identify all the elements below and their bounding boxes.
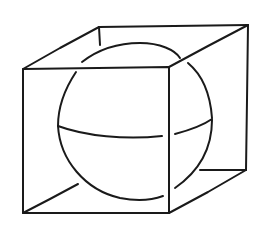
diagram-svg <box>0 0 270 234</box>
equator <box>58 119 212 138</box>
cube-bottom-right-edge <box>169 170 246 213</box>
sphere-outline-right-lower <box>175 120 212 188</box>
cube-back-right-edge <box>246 25 248 170</box>
sphere-outline-top <box>82 43 180 62</box>
cube-back-top-edge <box>99 25 248 27</box>
cube <box>23 25 248 213</box>
cube-back-left-edge-stub <box>99 27 100 45</box>
cube-bottom-left-edge-stub <box>23 184 78 213</box>
sphere-outline-right-upper <box>188 63 212 118</box>
cube-top-left-edge <box>23 27 99 69</box>
cube-front-face <box>23 67 169 213</box>
equator-front-segment <box>58 126 162 138</box>
cube-top-right-edge <box>169 25 248 67</box>
sphere-in-cube-diagram: Hand-drawn line sketch of a sphere inscr… <box>0 0 270 234</box>
equator-right-segment <box>175 119 212 134</box>
